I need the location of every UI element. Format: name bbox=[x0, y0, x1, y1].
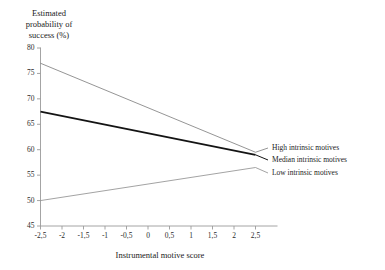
y-tick-label: 80 bbox=[17, 43, 35, 52]
x-tick-label: 0 bbox=[137, 231, 159, 240]
x-tick-label: -2 bbox=[51, 231, 73, 240]
x-tick-label: 2 bbox=[223, 231, 245, 240]
x-tick-label: 0,5 bbox=[159, 231, 181, 240]
legend-item-label: Median intrinsic motives bbox=[272, 155, 347, 164]
legend-leader-line bbox=[256, 148, 269, 152]
x-tick-label: 1 bbox=[180, 231, 202, 240]
x-tick-label: -1 bbox=[94, 231, 116, 240]
series-line bbox=[41, 112, 256, 155]
legend-item-label: Low intrinsic motives bbox=[272, 168, 338, 177]
legend-leader-line bbox=[256, 168, 269, 173]
x-axis-title: Instrumental motive score bbox=[60, 250, 260, 260]
y-tick-label: 50 bbox=[17, 196, 35, 205]
y-tick-label: 60 bbox=[17, 145, 35, 154]
y-tick-label: 45 bbox=[17, 221, 35, 230]
series-line bbox=[41, 168, 256, 201]
x-tick-label: -2,5 bbox=[30, 231, 52, 240]
plot-area bbox=[0, 0, 385, 270]
y-tick-label: 75 bbox=[17, 68, 35, 77]
x-tick-label: 1,5 bbox=[202, 231, 224, 240]
series-line bbox=[41, 63, 256, 152]
x-tick-label: 2,5 bbox=[245, 231, 267, 240]
x-tick-label: -1,5 bbox=[73, 231, 95, 240]
legend-leader-line bbox=[256, 155, 269, 160]
chart-figure: Estimated probability of success (%) Ins… bbox=[0, 0, 385, 270]
y-tick-label: 55 bbox=[17, 170, 35, 179]
y-tick-label: 70 bbox=[17, 94, 35, 103]
y-tick-label: 65 bbox=[17, 119, 35, 128]
legend-item-label: High intrinsic motives bbox=[272, 143, 339, 152]
x-tick-label: -0,5 bbox=[116, 231, 138, 240]
